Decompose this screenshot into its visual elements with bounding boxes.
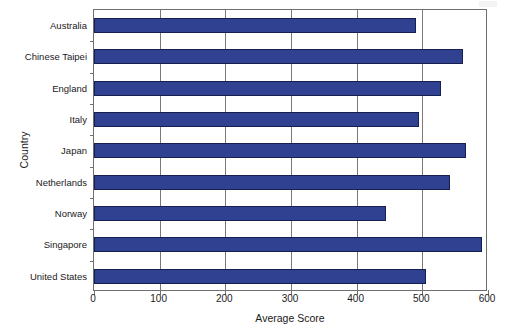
bar-row: Netherlands — [94, 167, 450, 198]
y-tick-label-england: England — [52, 84, 87, 94]
bar-japan — [94, 143, 466, 158]
bar-england — [94, 81, 441, 96]
y-tick-4 — [90, 135, 94, 136]
y-axis-title: Country — [19, 132, 30, 169]
x-tick-label-500: 500 — [413, 294, 430, 304]
bar-row: Japan — [94, 135, 466, 166]
bar-row: United States — [94, 261, 426, 292]
bar-row: Norway — [94, 198, 386, 229]
x-axis-title: Average Score — [93, 313, 487, 324]
y-tick-5 — [90, 167, 94, 168]
bar-row: England — [94, 73, 441, 104]
bar-italy — [94, 112, 419, 127]
y-tick-label-netherlands: Netherlands — [36, 178, 87, 188]
y-tick-3 — [90, 104, 94, 105]
x-tick-label-300: 300 — [282, 294, 299, 304]
y-tick-2 — [90, 73, 94, 74]
bar-row: Italy — [94, 104, 419, 135]
x-tick-label-400: 400 — [347, 294, 364, 304]
y-tick-label-singapore: Singapore — [44, 240, 87, 250]
scan-artifact — [479, 1, 497, 7]
y-tick-8 — [90, 261, 94, 262]
y-tick-label-australia: Australia — [50, 21, 87, 31]
bar-chart: Country AustraliaChinese TaipeiEnglandIt… — [0, 0, 505, 333]
x-tick-label-0: 0 — [90, 294, 96, 304]
bar-united-states — [94, 269, 426, 284]
x-tick-label-600: 600 — [479, 294, 496, 304]
bar-chinese-taipei — [94, 49, 463, 64]
bar-norway — [94, 206, 386, 221]
x-tick-label-100: 100 — [150, 294, 167, 304]
plot-area: AustraliaChinese TaipeiEnglandItalyJapan… — [93, 9, 487, 291]
bar-row: Singapore — [94, 229, 482, 260]
y-tick-1 — [90, 41, 94, 42]
x-tick-label-200: 200 — [216, 294, 233, 304]
y-tick-6 — [90, 198, 94, 199]
y-tick-label-norway: Norway — [55, 209, 87, 219]
bar-row: Australia — [94, 10, 416, 41]
y-tick-label-united-states: United States — [30, 272, 87, 282]
bar-netherlands — [94, 175, 450, 190]
bar-australia — [94, 18, 416, 33]
bar-row: Chinese Taipei — [94, 41, 463, 72]
bar-singapore — [94, 237, 482, 252]
y-tick-label-italy: Italy — [70, 115, 87, 125]
y-tick-7 — [90, 229, 94, 230]
y-tick-label-chinese-taipei: Chinese Taipei — [25, 52, 87, 62]
y-tick-label-japan: Japan — [61, 146, 87, 156]
